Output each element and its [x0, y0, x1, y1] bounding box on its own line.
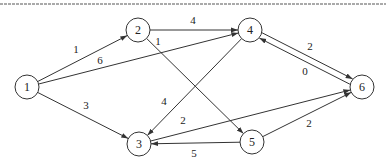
node-label: 6	[359, 80, 365, 94]
node-label: 4	[247, 23, 253, 37]
edge-weight-2-5: 1	[155, 35, 161, 47]
node-3: 3	[127, 132, 151, 156]
edge-weight-1-3: 3	[83, 99, 89, 111]
edge-labels-layer: 16341420252	[73, 14, 313, 159]
edge-weight-4-6: 2	[307, 40, 313, 52]
edge-1-to-2	[38, 35, 128, 81]
edge-weight-1-2: 1	[73, 43, 79, 55]
edge-weight-2-4: 4	[190, 14, 196, 26]
edge-weight-4-3: 4	[161, 95, 167, 107]
node-4: 4	[238, 18, 262, 42]
edge-weight-6-4: 0	[302, 65, 308, 77]
edge-weight-5-3: 5	[191, 147, 197, 159]
directed-graph: 16341420252 123456	[0, 0, 386, 166]
edge-5-to-3	[151, 142, 240, 144]
edge-weight-3-6: 2	[180, 114, 186, 126]
node-5: 5	[240, 130, 264, 154]
edge-weight-5-6: 2	[306, 117, 312, 129]
node-label: 3	[136, 137, 142, 151]
node-6: 6	[350, 75, 374, 99]
node-label: 1	[24, 80, 30, 94]
edge-6-to-4	[259, 38, 350, 84]
node-label: 2	[135, 23, 141, 37]
node-label: 5	[249, 135, 255, 149]
node-2: 2	[126, 18, 150, 42]
node-1: 1	[15, 75, 39, 99]
edge-weight-1-4: 6	[97, 54, 103, 66]
edge-5-to-6	[263, 92, 352, 136]
